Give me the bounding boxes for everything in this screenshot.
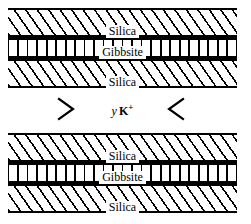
upper-stack-silica-upper-layer: [8, 8, 237, 37]
layered-mineral-diagram: Silica Gibbsite Silica yK+: [0, 0, 251, 224]
interlayer-species: K: [117, 104, 128, 118]
interlayer-charge: +: [128, 102, 133, 112]
upper-stack-silica-lower-layer: [8, 59, 237, 88]
upper-stack: Silica Gibbsite Silica: [8, 8, 237, 88]
lower-stack-silica-upper-layer: [8, 133, 237, 162]
lower-stack-silica-lower-layer: [8, 184, 237, 213]
interlayer-cation-label: yK+: [8, 100, 237, 118]
upper-stack-gibbsite-layer: [8, 37, 237, 59]
lower-stack: Silica Gibbsite Silica: [8, 133, 237, 213]
lower-stack-gibbsite-layer: [8, 162, 237, 184]
interlayer-gap: yK+: [8, 88, 237, 133]
